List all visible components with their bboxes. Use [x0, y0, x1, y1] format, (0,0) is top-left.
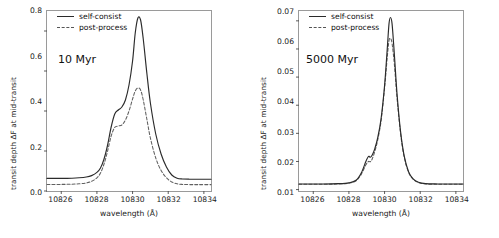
x-tick-label: 10826 — [48, 195, 72, 204]
y-tick-label: 0.01 — [258, 188, 294, 197]
legend-label: post-process — [79, 22, 127, 33]
y-tick-label: 0.06 — [258, 36, 294, 45]
legend-label: post-process — [331, 22, 379, 33]
panel-5000-myr: transit depth ΔF at mid-transit 0.01 0.0… — [250, 0, 499, 238]
curve-post-process — [47, 88, 211, 185]
legend-line-solid-icon — [57, 16, 74, 17]
legend: self-consist post-process — [309, 11, 379, 33]
x-tick-label: 10832 — [409, 195, 433, 204]
legend-line-solid-icon — [309, 16, 326, 17]
x-tick-label: 10834 — [193, 195, 217, 204]
y-tick-label: 0.8 — [14, 6, 42, 15]
y-axis-label: transit depth ΔF at mid-transit — [9, 77, 18, 190]
x-axis-label: wavelength (Å) — [298, 209, 464, 218]
legend-line-dashed-icon — [309, 27, 326, 28]
legend-item-post-process: post-process — [57, 22, 127, 33]
y-tick-label: 0.07 — [258, 6, 294, 15]
figure-transit-depth: transit depth ΔF at mid-transit 0.0 0.2 … — [0, 0, 499, 238]
legend-label: self-consist — [331, 11, 373, 22]
axis-ticks — [296, 21, 456, 194]
x-tick-label: 10830 — [121, 195, 145, 204]
legend-item-post-process: post-process — [309, 22, 379, 33]
curve-self-consist — [299, 17, 463, 184]
panel-annotation: 10 Myr — [58, 53, 96, 66]
x-tick-label: 10830 — [373, 195, 397, 204]
y-tick-label: 0.05 — [258, 67, 294, 76]
x-tick-label: 10834 — [445, 195, 469, 204]
x-tick-label: 10828 — [84, 195, 108, 204]
panel-10-myr: transit depth ΔF at mid-transit 0.0 0.2 … — [0, 0, 249, 238]
y-tick-label: 0.02 — [258, 157, 294, 166]
x-tick-label: 10828 — [336, 195, 360, 204]
x-tick-label: 10832 — [157, 195, 181, 204]
y-tick-label: 0.04 — [258, 97, 294, 106]
y-tick-label: 0.6 — [14, 51, 42, 60]
y-tick-label: 0.03 — [258, 127, 294, 136]
legend-item-self-consist: self-consist — [57, 11, 127, 22]
x-axis-label: wavelength (Å) — [46, 209, 212, 218]
legend-item-self-consist: self-consist — [309, 11, 379, 22]
y-tick-label: 0.2 — [14, 142, 42, 151]
curve-self-consist — [47, 17, 211, 179]
legend: self-consist post-process — [57, 11, 127, 33]
legend-label: self-consist — [79, 11, 121, 22]
y-tick-label: 0.4 — [14, 97, 42, 106]
y-tick-label: 0.0 — [14, 188, 42, 197]
legend-line-dashed-icon — [57, 27, 74, 28]
x-tick-label: 10826 — [300, 195, 324, 204]
panel-annotation: 5000 Myr — [306, 53, 358, 66]
